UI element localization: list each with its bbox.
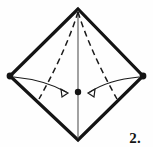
fold-arrow-right (90, 77, 139, 92)
corner-dot-right (140, 73, 147, 80)
dashed-crease-left (39, 12, 78, 99)
center-dot (75, 89, 81, 95)
origami-step-figure: 2. (0, 0, 153, 147)
fold-arrow-left-head (61, 89, 68, 97)
diamond-outline (10, 9, 143, 140)
fold-arrow-left (14, 77, 66, 92)
fold-arrow-right-head (88, 89, 95, 97)
step-number-label: 2. (129, 131, 141, 146)
corner-dot-left (7, 73, 14, 80)
origami-diagram-canvas (0, 0, 153, 147)
dashed-crease-right (78, 12, 117, 99)
